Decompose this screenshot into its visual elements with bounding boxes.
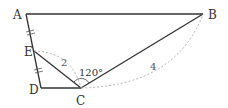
length-label-CB: 4 [150,61,156,72]
length-label-EC: 2 [61,57,67,68]
label-E: E [24,45,33,59]
label-B: B [208,8,217,22]
tick-mark-AE [26,30,35,35]
tick-mark-ED [34,68,43,73]
label-C: C [76,94,85,108]
label-A: A [12,8,22,22]
geometry-diagram: A B E D C 2 120° 4 [0,0,228,108]
angle-label-C: 120° [79,67,103,78]
label-D: D [29,83,39,97]
angle-arc-C [74,78,89,83]
